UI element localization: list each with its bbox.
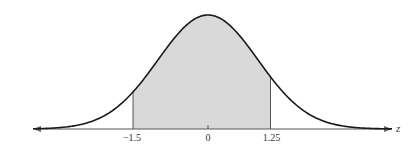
normal-curve-chart: −1.5 0 1.25 z (0, 0, 420, 154)
shaded-area (133, 15, 271, 129)
tick-label-neg-1-5: −1.5 (123, 132, 141, 143)
tick-label-1-25: 1.25 (263, 132, 281, 143)
tick-label-zero: 0 (206, 132, 211, 143)
axis-variable-label: z (395, 122, 401, 134)
